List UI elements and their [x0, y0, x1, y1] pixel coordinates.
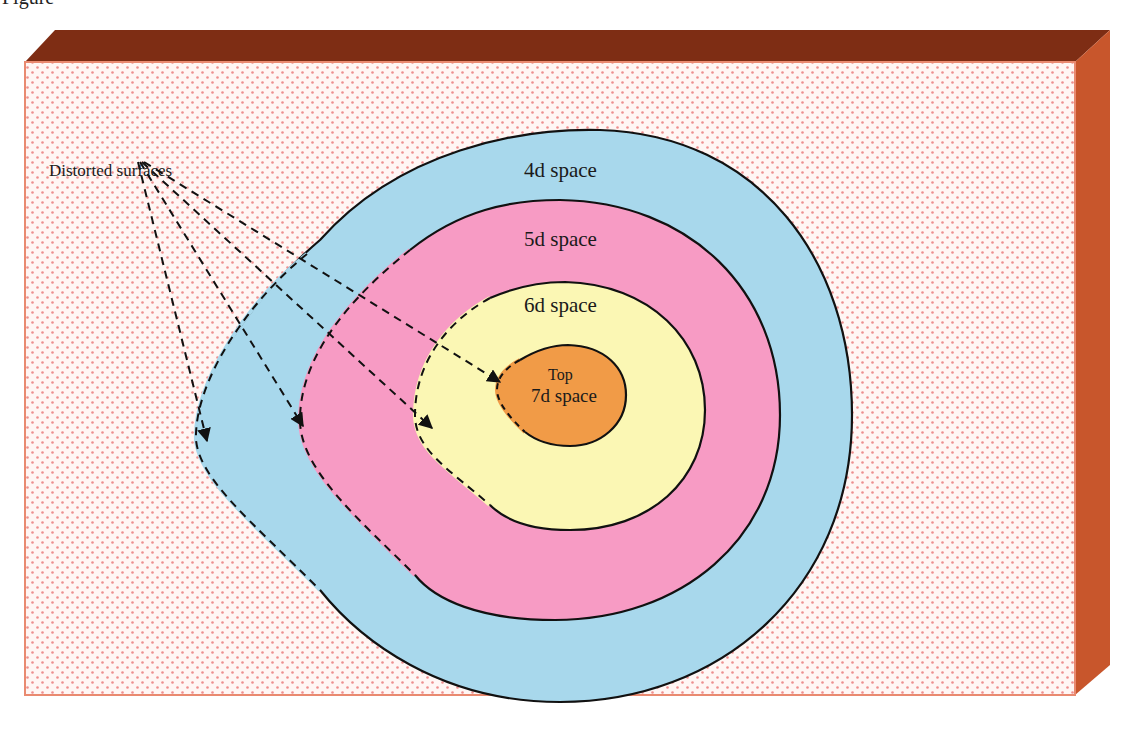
label-4d-space: 4d space [524, 158, 597, 183]
box-side-face [1075, 30, 1110, 695]
box-top-face [25, 30, 1110, 62]
label-5d-space: 5d space [524, 227, 597, 252]
label-7d-top: Top [548, 366, 573, 384]
label-6d-space: 6d space [524, 293, 597, 318]
figure-title-cropped: Figure [2, 0, 54, 9]
label-7d-space: 7d space [531, 385, 597, 407]
diagram-stage: Figure Distorted surfaces 4d space 5d sp… [0, 0, 1127, 735]
label-distorted-surfaces: Distorted surfaces [49, 161, 172, 181]
